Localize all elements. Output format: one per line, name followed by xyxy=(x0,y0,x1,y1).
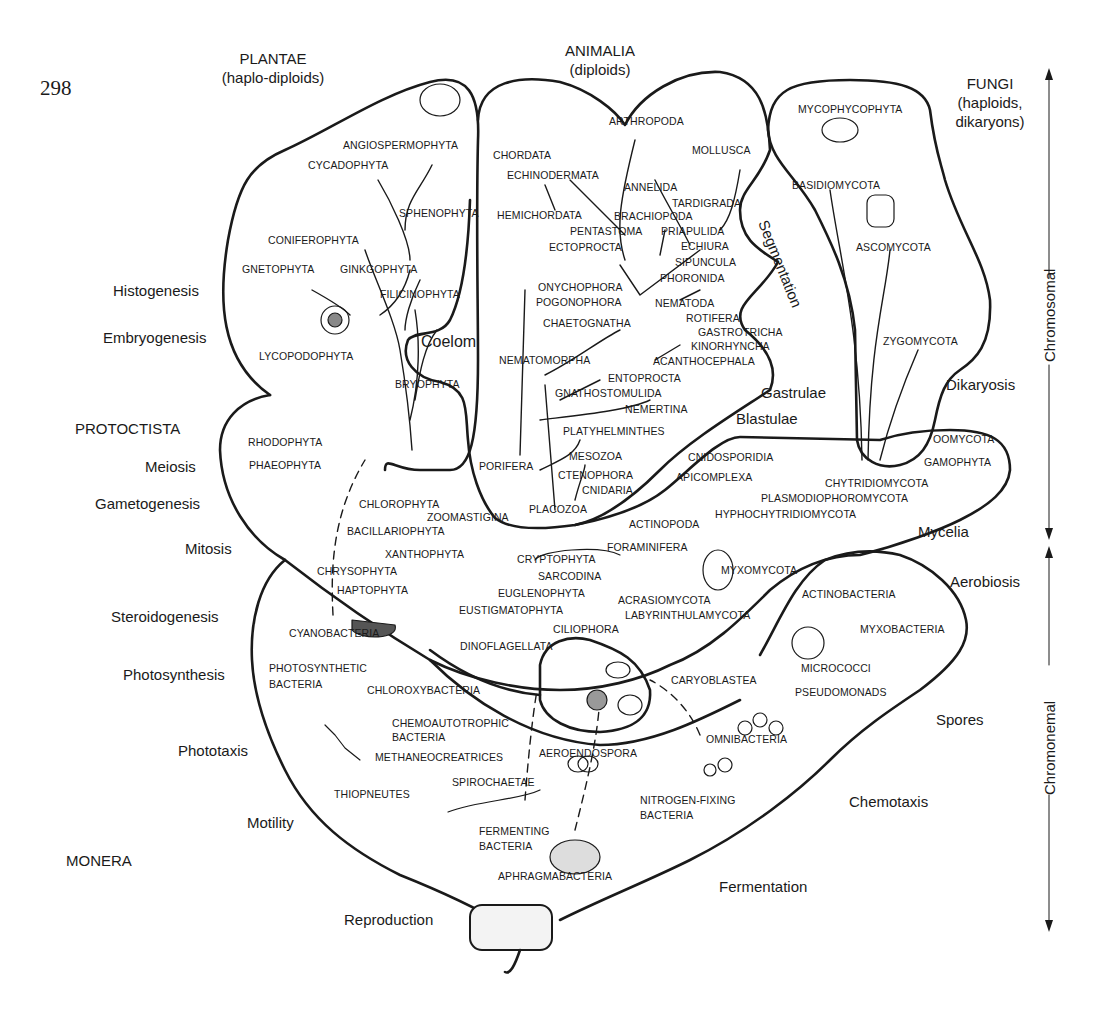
taxon-hyphochytridiomycota: HYPHOCHYTRIDIOMYCOTA xyxy=(715,509,856,520)
taxon-nematoda: NEMATODA xyxy=(655,298,714,309)
process-gametogenesis: Gametogenesis xyxy=(95,496,200,511)
process-phototaxis: Phototaxis xyxy=(178,743,248,758)
taxon-euglenophyta: EUGLENOPHYTA xyxy=(498,588,585,599)
taxon-bacillariophyta: BACILLARIOPHYTA xyxy=(347,526,445,537)
taxon-cnidosporidia: CNIDOSPORIDIA xyxy=(688,452,773,463)
taxon-pogonophora: POGONOPHORA xyxy=(536,297,622,308)
taxon-entoprocta: ENTOPROCTA xyxy=(608,373,681,384)
taxon-cnidaria: CNIDARIA xyxy=(582,485,633,496)
taxon-photosynthetic-bacteria-1: PHOTOSYNTHETIC xyxy=(269,663,367,674)
process-photosynthesis: Photosynthesis xyxy=(123,667,225,682)
kingdom-fungi: FUNGI (haploids, dikaryons) xyxy=(935,75,1045,131)
taxon-bryophyta: BRYOPHYTA xyxy=(395,379,460,390)
kingdom-animalia: ANIMALIA (diploids) xyxy=(545,42,655,80)
taxon-haptophyta: HAPTOPHYTA xyxy=(337,585,408,596)
taxon-chlorophyta: CHLOROPHYTA xyxy=(359,499,439,510)
process-chemotaxis: Chemotaxis xyxy=(849,794,928,809)
taxon-lycopodophyta: LYCOPODOPHYTA xyxy=(259,351,353,362)
monera-boundary xyxy=(252,551,967,925)
taxon-porifera: PORIFERA xyxy=(479,461,533,472)
taxon-actinobacteria: ACTINOBACTERIA xyxy=(802,589,896,600)
taxon-sipuncula: SIPUNCULA xyxy=(675,257,736,268)
process-dikaryosis: Dikaryosis xyxy=(946,377,1015,392)
taxon-apicomplexa: APICOMPLEXA xyxy=(676,472,752,483)
taxon-ginkgophyta: GINKGOPHYTA xyxy=(340,264,417,275)
taxon-annelida: ANNELIDA xyxy=(624,182,677,193)
taxon-mesozoa: MESOZOA xyxy=(569,451,622,462)
taxon-actinopoda: ACTINOPODA xyxy=(629,519,699,530)
taxon-platyhelminthes: PLATYHELMINTHES xyxy=(563,426,665,437)
kingdom-name: PLANTAE xyxy=(208,50,338,69)
taxon-gnathostomulida: GNATHOSTOMULIDA xyxy=(555,388,662,399)
taxon-aphragmabacteria: APHRAGMABACTERIA xyxy=(498,871,612,882)
page-number: 298 xyxy=(40,78,72,99)
taxon-sphenophyta: SPHENOPHYTA xyxy=(399,208,479,219)
taxon-rotifera: ROTIFERA xyxy=(686,313,740,324)
taxon-mycophycophyta: MYCOPHYCOPHYTA xyxy=(798,104,902,115)
taxon-caryoblastea: CARYOBLASTEA xyxy=(671,675,757,686)
process-meiosis: Meiosis xyxy=(145,459,196,474)
fungi-boundary xyxy=(768,80,990,466)
taxon-methaneocreatrices: METHANEOCREATRICES xyxy=(375,752,503,763)
process-histogenesis: Histogenesis xyxy=(113,283,199,298)
kingdom-note: (haploids, xyxy=(935,94,1045,113)
process-embryogenesis: Embryogenesis xyxy=(103,330,206,345)
kingdom-note: (diploids) xyxy=(545,61,655,80)
kingdom-note: dikaryons) xyxy=(935,113,1045,132)
taxon-tardigrada: TARDIGRADA xyxy=(672,198,741,209)
taxon-rhodophyta: RHODOPHYTA xyxy=(248,437,322,448)
kingdom-protoctista: PROTOCTISTA xyxy=(75,421,180,436)
reproduction-blob xyxy=(470,905,552,950)
axis-label-chromosomal: Chromosomal xyxy=(1042,269,1057,362)
taxon-pentastoma: PENTASTOMA xyxy=(570,226,642,237)
taxon-thiopneutes: THIOPNEUTES xyxy=(334,789,410,800)
process-fermentation: Fermentation xyxy=(719,879,807,894)
taxon-oomycota: OOMYCOTA xyxy=(933,434,994,445)
taxon-chemoautotrophic-bacteria-1: CHEMOAUTOTROPHIC xyxy=(392,718,509,729)
taxon-labyrinthulamycota: LABYRINTHULAMYCOTA xyxy=(625,610,750,621)
taxon-phoronida: PHORONIDA xyxy=(660,273,725,284)
taxon-nemertina: NEMERTINA xyxy=(625,404,688,415)
taxon-spirochaetae: SPIROCHAETAE xyxy=(452,777,535,788)
taxon-chordata: CHORDATA xyxy=(493,150,551,161)
taxon-echinodermata: ECHINODERMATA xyxy=(507,170,599,181)
taxon-plasmodiophoromycota: PLASMODIOPHOROMYCOTA xyxy=(761,493,908,504)
taxon-cycadophyta: CYCADOPHYTA xyxy=(308,160,388,171)
process-coelom: Coelom xyxy=(421,334,476,350)
taxon-ctenophora: CTENOPHORA xyxy=(558,470,633,481)
process-mycelia: Mycelia xyxy=(918,524,969,539)
taxon-pseudomonads: PSEUDOMONADS xyxy=(795,687,887,698)
taxon-priapulida: PRIAPULIDA xyxy=(661,226,724,237)
taxon-zoomastigina: ZOOMASTIGINA xyxy=(427,512,509,523)
taxon-chrysophyta: CHRYSOPHYTA xyxy=(317,566,397,577)
taxon-chemoautotrophic-bacteria-2: BACTERIA xyxy=(392,732,445,743)
taxon-coniferophyta: CONIFEROPHYTA xyxy=(268,235,359,246)
kingdom-name: ANIMALIA xyxy=(545,42,655,61)
process-mitosis: Mitosis xyxy=(185,541,232,556)
kingdom-plantae: PLANTAE (haplo-diploids) xyxy=(208,50,338,88)
taxon-phaeophyta: PHAEOPHYTA xyxy=(249,460,321,471)
taxon-brachiopoda: BRACHIOPODA xyxy=(614,211,693,222)
taxon-chaetognatha: CHAETOGNATHA xyxy=(543,318,631,329)
taxon-gamophyta: GAMOPHYTA xyxy=(924,457,991,468)
taxon-onychophora: ONYCHOPHORA xyxy=(538,282,623,293)
taxon-ectoprocta: ECTOPROCTA xyxy=(549,242,622,253)
taxon-cyanobacteria: CYANOBACTERIA xyxy=(289,628,379,639)
process-blastulae: Blastulae xyxy=(736,411,798,426)
taxon-basidiomycota: BASIDIOMYCOTA xyxy=(792,180,880,191)
taxon-photosynthetic-bacteria-2: BACTERIA xyxy=(269,679,322,690)
taxon-gastrotricha: GASTROTRICHA xyxy=(698,327,783,338)
taxon-nitrogen-fixing-bacteria-2: BACTERIA xyxy=(640,810,693,821)
cell-outline xyxy=(540,638,650,732)
taxon-zygomycota: ZYGOMYCOTA xyxy=(883,336,958,347)
process-spores: Spores xyxy=(936,712,984,727)
axis-label-chromonemal: Chromonemal xyxy=(1042,701,1057,795)
taxon-aeroendospora: AEROENDOSPORA xyxy=(539,748,637,759)
taxon-sarcodina: SARCODINA xyxy=(538,571,601,582)
taxon-foraminifera: FORAMINIFERA xyxy=(607,542,688,553)
taxon-ciliophora: CILIOPHORA xyxy=(553,624,619,635)
taxon-eustigmatophyta: EUSTIGMATOPHYTA xyxy=(459,605,563,616)
kingdom-name: FUNGI xyxy=(935,75,1045,94)
kingdom-note: (haplo-diploids) xyxy=(208,69,338,88)
taxon-dinoflagellata: DINOFLAGELLATA xyxy=(460,641,553,652)
